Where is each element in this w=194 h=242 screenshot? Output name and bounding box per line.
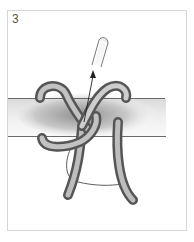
rope-free-end: [92, 38, 108, 67]
knot-illustration: [0, 0, 194, 242]
